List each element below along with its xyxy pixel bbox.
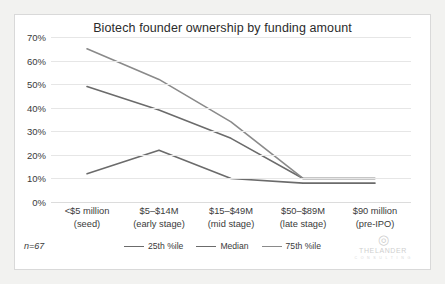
y-axis-tick-label: 0% [32,197,46,208]
x-axis-category-line: $90 million [339,205,411,218]
x-axis-category-2: $5–$14M(early stage) [123,205,195,239]
y-axis-tick-label: 30% [27,126,46,137]
y-axis-tick-label: 20% [27,149,46,160]
series-lines [51,37,411,202]
legend-item-median[interactable]: Median [196,241,248,251]
legend-item-25th-ile[interactable]: 25th %ile [124,241,183,251]
x-axis-category-line: (pre-IPO) [339,218,411,231]
chart-figure: Biotech founder ownership by funding amo… [0,0,445,284]
x-axis-category-line: $5–$14M [123,205,195,218]
thelander-logo: ◎ THELANDER C O N S U L T I N G [346,233,420,261]
x-axis-category-line: (early stage) [123,218,195,231]
gridline-40: 40% [51,108,411,109]
y-axis-tick-label: 50% [27,79,46,90]
logo-mark-icon: ◎ [346,233,420,246]
legend-item-75th-ile[interactable]: 75th %ile [262,241,321,251]
gridline-50: 50% [51,84,411,85]
legend-line-swatch [196,246,216,247]
chart-title: Biotech founder ownership by funding amo… [15,21,430,35]
x-axis-category-line: <$5 million [51,205,123,218]
chart-card: Biotech founder ownership by funding amo… [14,14,431,270]
y-axis-tick-label: 60% [27,55,46,66]
x-axis-category-4: $50–$89M(late stage) [267,205,339,239]
x-axis-category-line: (late stage) [267,218,339,231]
x-axis-category-line: $50–$89M [267,205,339,218]
legend-line-swatch [262,246,282,247]
y-axis-tick-label: 40% [27,102,46,113]
gridline-20: 20% [51,155,411,156]
y-axis-tick-label: 70% [27,32,46,43]
x-axis-category-1: <$5 million(seed) [51,205,123,239]
legend-label: 25th %ile [148,241,183,251]
gridline-10: 10% [51,178,411,179]
logo-subtitle: C O N S U L T I N G [346,255,420,261]
sample-size-note: n=67 [24,241,44,251]
legend-label: 75th %ile [286,241,321,251]
gridline-60: 60% [51,61,411,62]
legend-line-swatch [124,246,144,247]
gridline-30: 30% [51,131,411,132]
x-axis-category-3: $15–$49M(mid stage) [195,205,267,239]
y-axis-tick-label: 10% [27,173,46,184]
series-line-median [87,87,375,179]
legend-label: Median [220,241,248,251]
gridline-70: 70% [51,37,411,38]
gridline-0: 0% [51,202,411,203]
x-axis-category-line: (seed) [51,218,123,231]
x-axis-category-line: $15–$49M [195,205,267,218]
x-axis-category-line: (mid stage) [195,218,267,231]
logo-wordmark: THELANDER [346,246,420,255]
plot-area: 70%60%50%40%30%20%10%0% [51,37,411,202]
